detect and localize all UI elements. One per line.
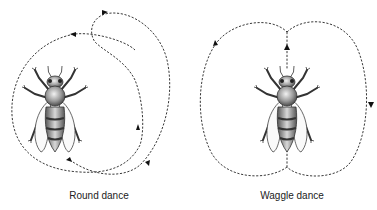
arrow-icon <box>368 102 374 108</box>
bee-icon <box>254 66 320 152</box>
arrow-icon <box>136 124 140 130</box>
arrow-icon <box>145 160 150 166</box>
arrow-icon <box>66 157 72 162</box>
waggle-dance-label: Waggle dance <box>260 190 324 201</box>
arrow-icon <box>284 44 290 50</box>
arrow-icon <box>102 10 108 15</box>
bee-icon <box>22 66 88 152</box>
bee-dance-diagram <box>0 0 377 210</box>
waggle-dance-panel <box>200 22 374 176</box>
waggle-dance-path-right <box>287 22 367 176</box>
round-dance-panel <box>12 10 170 174</box>
arrow-icon <box>70 32 76 37</box>
round-dance-label: Round dance <box>69 190 129 201</box>
arrow-icon <box>213 40 218 46</box>
